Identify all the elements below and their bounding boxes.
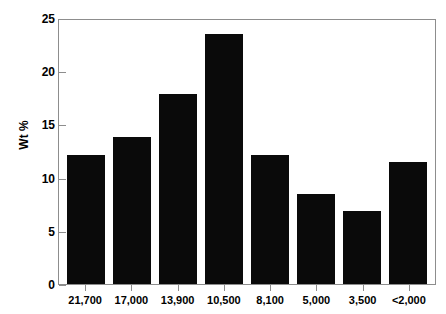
x-axis: 21,70017,00013,90010,5008,1005,0003,500<… [58, 285, 436, 314]
x-tick-label: 13,900 [155, 294, 201, 306]
x-tick-mark [224, 285, 225, 291]
bar-slot [109, 20, 155, 284]
x-tick-slot: 3,500 [340, 285, 386, 314]
y-tick-label: 0 [48, 278, 55, 292]
bar-slot [339, 20, 385, 284]
x-tick-slot: 10,500 [201, 285, 247, 314]
x-tick-mark [409, 285, 410, 291]
x-tick-mark [363, 285, 364, 291]
bar[interactable] [113, 137, 152, 284]
x-tick-mark [316, 285, 317, 291]
x-tick-label: 3,500 [340, 294, 386, 306]
bar-series [59, 20, 435, 284]
x-tick-mark [131, 285, 132, 291]
x-tick-slot: 21,700 [62, 285, 108, 314]
bar-slot [155, 20, 201, 284]
x-tick-label: 5,000 [293, 294, 339, 306]
y-tick-label: 20 [42, 65, 55, 79]
bar[interactable] [67, 155, 106, 284]
x-tick-label: 10,500 [201, 294, 247, 306]
y-axis-title: Wt % [17, 115, 31, 155]
plot-area: 0 5 10 15 20 25 [58, 19, 436, 285]
y-tick-label: 10 [42, 172, 55, 186]
x-tick-label: 8,100 [247, 294, 293, 306]
x-tick-mark [85, 285, 86, 291]
bar-slot [247, 20, 293, 284]
bar[interactable] [389, 162, 428, 284]
y-tick-label: 15 [42, 118, 55, 132]
bar[interactable] [343, 211, 382, 284]
bar-slot [63, 20, 109, 284]
bar-slot [201, 20, 247, 284]
x-tick-slot: 8,100 [247, 285, 293, 314]
x-tick-slot: 13,900 [155, 285, 201, 314]
bar[interactable] [297, 194, 336, 284]
x-tick-slot: 5,000 [293, 285, 339, 314]
bar-slot [385, 20, 431, 284]
x-tick-label: <2,000 [386, 294, 432, 306]
x-tick-slot: <2,000 [386, 285, 432, 314]
bar[interactable] [205, 34, 244, 284]
x-tick-mark [178, 285, 179, 291]
bar-chart-figure: Wt % 0 5 10 15 20 [0, 0, 446, 314]
x-tick-slot: 17,000 [108, 285, 154, 314]
bar[interactable] [159, 94, 198, 284]
y-tick-label: 5 [48, 225, 55, 239]
x-tick-label: 17,000 [108, 294, 154, 306]
bar[interactable] [251, 155, 290, 284]
x-tick-label: 21,700 [62, 294, 108, 306]
bar-slot [293, 20, 339, 284]
x-tick-mark [270, 285, 271, 291]
y-tick-label: 25 [42, 12, 55, 26]
